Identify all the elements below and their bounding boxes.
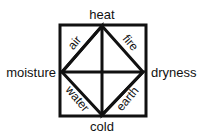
- elements-qualities-diagram: heat moisture dryness cold air fire wate…: [0, 0, 205, 136]
- quality-cold: cold: [90, 119, 114, 134]
- quality-dryness: dryness: [151, 65, 197, 80]
- quality-heat: heat: [89, 7, 115, 22]
- quality-moisture: moisture: [6, 65, 56, 80]
- element-earth: earth: [113, 84, 141, 114]
